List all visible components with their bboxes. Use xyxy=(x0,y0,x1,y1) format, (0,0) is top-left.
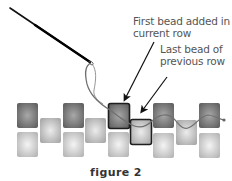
bead xyxy=(17,103,38,128)
label-first-bead-line1: First bead added in xyxy=(133,15,230,27)
first-bead-current-row xyxy=(109,104,130,129)
figure-caption: figure 2 xyxy=(0,166,232,179)
label-last-bead-line1: Last bead of xyxy=(160,43,225,55)
arrow-first-bead xyxy=(125,42,154,99)
label-first-bead-line2: current row xyxy=(133,27,230,39)
label-last-bead: Last bead of previous row xyxy=(160,43,225,67)
bead xyxy=(199,133,220,158)
label-last-bead-line2: previous row xyxy=(160,55,225,67)
label-first-bead: First bead added in current row xyxy=(133,15,230,39)
bead xyxy=(153,133,174,158)
bead xyxy=(85,118,106,143)
bead xyxy=(63,132,84,157)
bead xyxy=(63,103,84,128)
bead xyxy=(17,132,38,157)
bead xyxy=(40,118,61,143)
needle-shaft xyxy=(35,25,90,62)
thread-end xyxy=(222,118,225,121)
last-bead-previous-row xyxy=(131,120,152,145)
thread-loop xyxy=(92,64,103,104)
bead xyxy=(108,132,129,157)
